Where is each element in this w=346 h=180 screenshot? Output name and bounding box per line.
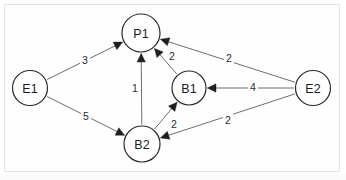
arrow-head-icon-b2-p1 xyxy=(137,54,145,63)
diagram-canvas: 35122422 E1P1B1B2E2 xyxy=(0,0,346,180)
node-label-p1: P1 xyxy=(133,27,148,41)
node-label-e1: E1 xyxy=(22,82,37,96)
arrow-head-icon-e2-b1 xyxy=(208,84,217,92)
node-p1[interactable]: P1 xyxy=(122,14,160,52)
arrow-head-icon-e2-p1 xyxy=(161,38,170,46)
edge-weight-e2-p1: 2 xyxy=(226,52,232,64)
edge-weight-b2-b1: 2 xyxy=(171,118,177,130)
node-b1[interactable]: B1 xyxy=(172,71,206,105)
node-b2[interactable]: B2 xyxy=(124,126,160,162)
arrow-head-icon-b2-b1 xyxy=(168,102,177,111)
edge-weight-b1-p1: 2 xyxy=(169,50,175,62)
node-label-e2: E2 xyxy=(305,82,320,96)
edge-weight-e2-b2: 2 xyxy=(225,114,231,126)
node-e2[interactable]: E2 xyxy=(296,71,331,106)
edge-weight-e2-b1: 4 xyxy=(250,81,256,93)
edge-weight-b2-p1: 1 xyxy=(132,82,138,94)
edge-weight-e1-p1: 3 xyxy=(82,54,88,66)
arrow-head-icon-e2-b2 xyxy=(161,131,170,139)
edge-line-b2-p1 xyxy=(141,53,142,124)
node-label-b1: B1 xyxy=(181,82,196,96)
edge-weight-e1-b2: 5 xyxy=(83,110,89,122)
node-label-b2: B2 xyxy=(134,138,149,152)
graph-svg: 35122422 E1P1B1B2E2 xyxy=(0,0,346,180)
edge-weights-layer: 35122422 xyxy=(80,50,258,131)
node-e1[interactable]: E1 xyxy=(13,71,48,106)
